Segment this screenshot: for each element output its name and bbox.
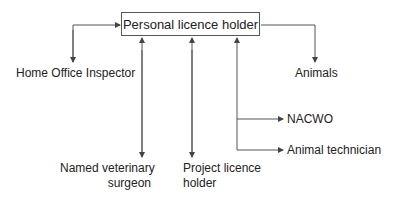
arrow-home-office-to-plh (73, 25, 120, 62)
named-veterinary-surgeon-label: Named veterinary surgeon (60, 161, 151, 191)
nacwo-label: NACWO (287, 112, 333, 127)
project-line2: holder (183, 176, 261, 191)
personal-licence-holder-node: Personal licence holder (121, 12, 260, 36)
animal-technician-label: Animal technician (287, 143, 381, 158)
home-office-inspector-label: Home Office Inspector (16, 66, 135, 81)
nvs-line2: surgeon (60, 176, 151, 191)
project-line1: Project licence (183, 161, 261, 176)
project-licence-holder-label: Project licence holder (183, 161, 261, 191)
animals-label: Animals (295, 66, 338, 81)
center-node-label: Personal licence holder (123, 17, 258, 32)
nvs-line1: Named veterinary (60, 161, 151, 176)
arrow-plh-to-animals (261, 25, 315, 62)
